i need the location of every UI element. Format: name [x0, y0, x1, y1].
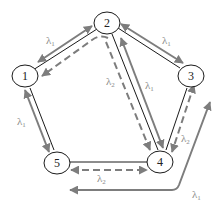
node-1: 1 [12, 65, 38, 87]
node-4-label: 4 [157, 155, 163, 169]
edge-5-1 [30, 88, 54, 150]
label-flow-1-5: λ1 [17, 115, 26, 129]
node-5: 5 [44, 152, 70, 174]
label-flow-2-4-solid: λ1 [145, 79, 154, 93]
node-3: 3 [178, 65, 204, 87]
node-4: 4 [147, 151, 173, 173]
label-flow-1-2: λ1 [46, 34, 55, 48]
label-flow-external: λ1 [192, 188, 201, 202]
label-flow-2-4-dashed: λ2 [106, 75, 115, 89]
edge-2-3 [118, 28, 180, 68]
label-flow-2-3: λ1 [162, 34, 171, 48]
flow-external-lambda1 [70, 102, 210, 190]
flow-1-5-lambda1 [25, 90, 49, 152]
node-3-label: 3 [188, 69, 194, 83]
node-2: 2 [94, 12, 120, 34]
network-diagram: 1 2 3 4 5 λ1 λ1 λ2 λ1 λ1 λ2 λ2 λ1 [0, 0, 223, 203]
label-flow-3-4: λ2 [181, 132, 190, 146]
node-5-label: 5 [54, 156, 60, 170]
edge-1-2 [33, 29, 97, 70]
label-flow-5-4: λ2 [97, 172, 106, 186]
node-1-label: 1 [22, 69, 28, 83]
node-2-label: 2 [104, 16, 110, 30]
flow-2-3-lambda1 [121, 24, 183, 63]
